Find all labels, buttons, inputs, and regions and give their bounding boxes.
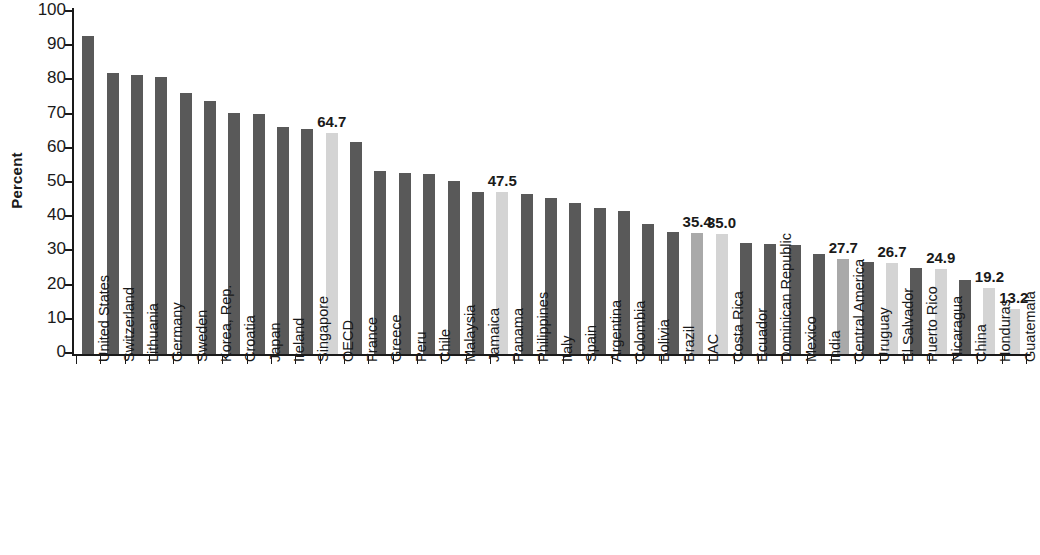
y-axis-tick-label: 0 (22, 342, 66, 362)
x-axis-category-label-text: Argentina (608, 300, 624, 362)
x-axis-category-label: Argentina (600, 300, 616, 362)
x-axis-category-label: France (356, 317, 372, 362)
x-axis-category-label: Lithuania (137, 303, 153, 362)
x-axis-category-label-text: Panama (510, 308, 526, 362)
x-axis-category-label-text: Central America (851, 259, 867, 362)
x-axis-category-label-text: Puerto Rico (924, 286, 940, 362)
y-axis-tick-mark (65, 44, 72, 46)
y-axis-tick-mark (65, 215, 72, 217)
bar-value-label: 64.7 (317, 113, 346, 130)
y-axis-tick-label: 70 (22, 103, 66, 123)
x-axis-category-label: Chile (429, 329, 445, 362)
y-axis-line (72, 8, 74, 356)
x-axis-category-label: Brazil (673, 326, 689, 362)
y-axis-tick-mark (65, 147, 72, 149)
x-axis-category-label: United States (88, 275, 104, 362)
x-axis-category-label-text: Uruguay (876, 307, 892, 362)
x-axis-category-label: Italy (551, 335, 567, 362)
x-axis-category-label-text: Nicaragua (949, 296, 965, 362)
x-axis-category-label-text: OECD (340, 320, 356, 362)
x-axis-category-label-text: France (364, 317, 380, 362)
x-axis-category-label-text: Italy (559, 335, 575, 362)
y-axis-tick-mark (65, 78, 72, 80)
y-axis-tick-label: 100 (22, 0, 66, 20)
x-axis-category-label-text: Costa Rica (730, 291, 746, 362)
x-axis-category-label-text: Lithuania (145, 303, 161, 362)
x-axis-category-label: China (965, 324, 981, 362)
x-axis-category-label-text: Brazil (681, 326, 697, 362)
bar-value-label: 35.0 (707, 214, 736, 231)
x-axis-category-label: Singapore (307, 296, 323, 362)
x-axis-category-label-text: Korea, Rep. (218, 285, 234, 362)
y-axis-tick-mark (65, 113, 72, 115)
x-axis-category-label: Mexico (795, 316, 811, 362)
x-axis-category-label: Panama (502, 308, 518, 362)
x-axis-category-label-text: Croatia (242, 315, 258, 362)
y-axis-tick-label: 30 (22, 239, 66, 259)
x-axis-category-label: Jamaica (478, 308, 494, 362)
x-axis-category-label: Japan (259, 322, 275, 362)
x-axis-category-label: Guatemala (1014, 291, 1030, 362)
x-axis-category-label: Sweden (186, 310, 202, 362)
bar-value-label: 26.7 (877, 243, 906, 260)
x-axis-category-label: Puerto Rico (916, 286, 932, 362)
x-axis-category-label: Switzerland (113, 287, 129, 362)
x-axis-category-label: Peru (405, 331, 421, 362)
x-axis-category-label: Ecuador (746, 308, 762, 362)
x-axis-category-label: Ireland (283, 318, 299, 362)
y-axis-tick-label: 90 (22, 34, 66, 54)
x-axis-category-label-text: Jamaica (486, 308, 502, 362)
bar (423, 174, 435, 354)
x-axis-category-label-text: Bolivia (656, 319, 672, 362)
x-axis-category-label-text: Philippines (535, 292, 551, 362)
x-axis-category-label: India (819, 331, 835, 362)
y-axis-tick-label: 10 (22, 308, 66, 328)
x-axis-category-label-text: India (827, 331, 843, 362)
x-axis-category-label: Croatia (234, 315, 250, 362)
x-axis-category-label: Honduras (989, 299, 1005, 362)
y-axis-tick-mark (65, 181, 72, 183)
y-axis-tick-mark (65, 318, 72, 320)
x-axis-category-label-text: Malaysia (462, 305, 478, 362)
y-axis-tick-label: 80 (22, 68, 66, 88)
x-axis-category-label: LAC (697, 334, 713, 362)
x-axis-category-label-text: Ecuador (754, 308, 770, 362)
x-axis-category-label-text: Japan (267, 322, 283, 362)
y-axis-tick-mark (65, 249, 72, 251)
x-axis-category-label-text: Peru (413, 331, 429, 362)
bar-value-label: 24.9 (926, 249, 955, 266)
x-axis-category-label: OECD (332, 320, 348, 362)
x-axis-category-label-text: Guatemala (1022, 291, 1038, 362)
x-axis-category-label-text: Greece (388, 314, 404, 362)
x-axis-category-label-text: Spain (583, 325, 599, 362)
bar-value-label: 19.2 (975, 268, 1004, 285)
x-axis-category-label: Colombia (624, 301, 640, 362)
y-axis-tick-label: 60 (22, 137, 66, 157)
x-axis-category-label: Central America (843, 259, 859, 362)
x-axis-category-label-text: Chile (437, 329, 453, 362)
x-axis-category-label-text: Honduras (997, 299, 1013, 362)
x-axis-category-label-text: Sweden (194, 310, 210, 362)
y-axis-tick-label: 20 (22, 274, 66, 294)
x-axis-category-label-text: Ireland (291, 318, 307, 362)
x-axis-category-label-text: Singapore (315, 296, 331, 362)
x-axis-category-label-text: China (973, 324, 989, 362)
x-axis-category-label: Malaysia (454, 305, 470, 362)
x-axis-category-label-text: El Salvador (900, 288, 916, 362)
x-axis-category-label: Spain (575, 325, 591, 362)
x-axis-category-label: Costa Rica (722, 291, 738, 362)
y-axis-tick-mark (65, 352, 72, 354)
x-axis-category-label-text: Germany (169, 302, 185, 362)
y-axis-tick-mark (65, 284, 72, 286)
x-axis-category-label: Korea, Rep. (210, 285, 226, 362)
x-axis-category-label: Nicaragua (941, 296, 957, 362)
x-axis-category-label: Greece (380, 314, 396, 362)
x-axis-category-label: Germany (161, 302, 177, 362)
bar-value-label: 27.7 (829, 239, 858, 256)
x-axis-category-label-text: Switzerland (121, 287, 137, 362)
y-axis-tick-mark (65, 10, 72, 12)
x-axis-category-label-text: Dominican Republic (778, 233, 794, 362)
x-axis-category-label-text: Colombia (632, 301, 648, 362)
y-axis-tick-label: 40 (22, 205, 66, 225)
x-axis-category-label: Uruguay (868, 307, 884, 362)
